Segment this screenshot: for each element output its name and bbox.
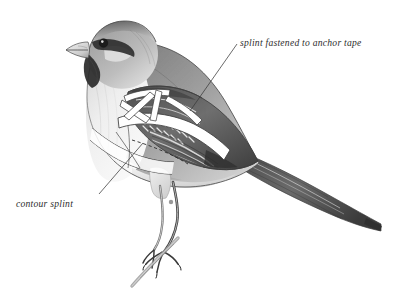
label-splint-fastened-to-anchor-tape: splint fastened to anchor tape	[240, 38, 362, 48]
label-contour-splint: contour splint	[16, 199, 73, 209]
bird-legs	[132, 167, 181, 286]
illustration-canvas: splint fastened to anchor tape contour s…	[0, 0, 406, 290]
bird-head	[66, 21, 158, 89]
